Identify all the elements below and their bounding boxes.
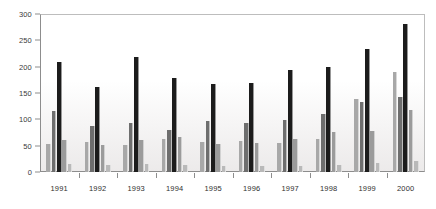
bar	[206, 121, 211, 172]
x-axis: 1991199219931994199519961997199819992000	[40, 173, 425, 203]
bar	[283, 120, 288, 172]
bar	[106, 165, 111, 172]
bar	[255, 143, 260, 172]
bar	[178, 137, 183, 172]
bar-chart: 050100150200250300 199119921993199419951…	[0, 0, 436, 209]
bar	[277, 143, 282, 172]
bar	[360, 102, 365, 172]
bar	[365, 49, 370, 172]
bar	[90, 126, 95, 172]
y-axis-tick-label: 200	[19, 62, 32, 71]
bar	[162, 139, 167, 172]
bar	[260, 166, 265, 172]
y-axis-tick-label: 250	[19, 36, 32, 45]
bar	[95, 87, 100, 172]
x-axis-tick-mark	[387, 173, 388, 178]
y-axis-tick-label: 100	[19, 115, 32, 124]
bar	[370, 131, 375, 172]
bar	[167, 130, 172, 172]
bar	[172, 78, 177, 172]
bar	[129, 123, 134, 173]
x-axis-tick-label: 1994	[166, 184, 184, 193]
y-axis-tick-label: 0	[28, 168, 32, 177]
x-axis-tick-label: 1997	[282, 184, 300, 193]
bar	[145, 164, 150, 172]
y-axis-tick-label: 300	[19, 10, 32, 19]
x-axis-tick-label: 1993	[128, 184, 146, 193]
bar	[222, 166, 227, 172]
x-axis-tick-label: 1991	[51, 184, 69, 193]
x-axis-tick-label: 1992	[89, 184, 107, 193]
bar	[288, 70, 293, 172]
bar	[249, 83, 254, 172]
bar	[57, 62, 62, 172]
y-axis: 050100150200250300	[0, 0, 40, 209]
bar	[244, 123, 249, 172]
bar	[414, 161, 419, 172]
bar	[123, 145, 128, 172]
bar	[403, 24, 408, 172]
x-axis-tick-label: 1998	[320, 184, 338, 193]
x-axis-tick-mark	[348, 173, 349, 178]
bar	[316, 139, 321, 172]
bar	[299, 166, 304, 172]
x-axis-tick-mark	[194, 173, 195, 178]
bar	[409, 110, 414, 172]
bar	[46, 144, 51, 172]
bar	[62, 140, 67, 172]
x-axis-tick-label: 2000	[397, 184, 415, 193]
bar	[239, 141, 244, 172]
bar	[354, 99, 359, 172]
bar	[337, 165, 342, 172]
bar	[321, 114, 326, 172]
bar	[68, 164, 73, 172]
x-axis-tick-label: 1999	[359, 184, 377, 193]
bars-layer	[40, 14, 425, 172]
bar	[293, 139, 298, 172]
y-axis-tick-label: 50	[23, 141, 32, 150]
x-axis-tick-label: 1996	[243, 184, 261, 193]
bar	[101, 145, 106, 172]
bar	[183, 165, 188, 172]
x-axis-tick-mark	[233, 173, 234, 178]
bar	[332, 132, 337, 172]
bar	[398, 97, 403, 172]
bar	[139, 140, 144, 172]
x-axis-tick-mark	[310, 173, 311, 178]
bar	[326, 67, 331, 172]
bar	[211, 84, 216, 172]
bar	[52, 111, 57, 172]
bar	[393, 72, 398, 172]
bar	[216, 144, 221, 172]
x-axis-tick-mark	[271, 173, 272, 178]
x-axis-tick-label: 1995	[205, 184, 223, 193]
x-axis-tick-mark	[117, 173, 118, 178]
y-axis-tick-label: 150	[19, 89, 32, 98]
bar	[376, 163, 381, 172]
bar	[200, 142, 205, 172]
bar	[134, 57, 139, 172]
bar	[85, 142, 90, 172]
x-axis-tick-mark	[79, 173, 80, 178]
x-axis-tick-mark	[156, 173, 157, 178]
